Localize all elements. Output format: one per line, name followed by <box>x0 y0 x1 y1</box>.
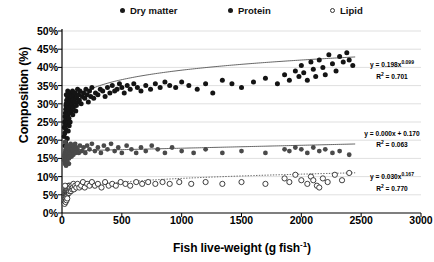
data-point <box>332 172 337 177</box>
data-point <box>153 81 158 86</box>
data-point <box>203 81 208 86</box>
data-point <box>105 147 110 152</box>
data-point <box>119 85 124 90</box>
data-point <box>320 176 325 181</box>
data-point <box>116 145 121 150</box>
trendline-dry-matter <box>67 57 355 109</box>
data-point <box>326 52 331 57</box>
data-point <box>90 141 95 146</box>
data-point <box>63 140 68 145</box>
data-point <box>317 149 322 154</box>
data-point <box>155 147 160 152</box>
data-point <box>119 151 124 156</box>
data-point <box>299 63 304 68</box>
data-point <box>89 85 94 90</box>
data-point <box>334 69 339 74</box>
data-point <box>195 87 200 92</box>
data-point <box>293 69 298 74</box>
data-point <box>203 147 208 152</box>
data-point <box>139 145 144 150</box>
data-point <box>344 50 349 55</box>
data-point <box>296 74 301 79</box>
annotation-protein: y = 0.000x + 0.170 R2 = 0.063 <box>352 130 432 150</box>
data-point <box>341 59 346 64</box>
data-point <box>96 145 101 150</box>
data-point <box>203 179 208 184</box>
series-protein <box>62 140 352 168</box>
data-point <box>115 87 120 92</box>
data-point <box>263 181 268 186</box>
data-point <box>101 143 106 148</box>
data-point <box>179 79 184 84</box>
data-point <box>311 145 316 150</box>
annotation-dry-matter: y = 0.198x0.099 R2 = 0.701 <box>352 58 432 81</box>
data-point <box>167 83 172 88</box>
data-point <box>305 78 310 83</box>
data-point <box>320 65 325 70</box>
data-point <box>301 70 306 75</box>
data-point <box>287 179 292 184</box>
data-point <box>158 85 163 90</box>
data-point <box>110 83 115 88</box>
data-point <box>186 83 191 88</box>
data-point <box>128 183 133 188</box>
data-point <box>66 129 71 134</box>
data-point <box>124 143 129 148</box>
data-point <box>134 179 139 184</box>
data-point <box>167 181 172 186</box>
chart-container: Dry matter Protein Lipid Composition (%)… <box>0 0 434 262</box>
data-point <box>179 149 184 154</box>
data-point <box>160 179 165 184</box>
data-point <box>129 147 134 152</box>
data-point <box>143 83 148 88</box>
data-point <box>63 183 68 188</box>
data-point <box>239 85 244 90</box>
data-point <box>282 176 287 181</box>
data-point <box>330 151 335 156</box>
data-point <box>143 149 148 154</box>
data-point <box>263 151 268 156</box>
data-point <box>293 172 298 177</box>
data-point <box>347 58 352 63</box>
data-point <box>311 67 316 72</box>
data-point <box>239 149 244 154</box>
data-point <box>239 179 244 184</box>
data-point <box>134 151 139 156</box>
data-point <box>293 145 298 150</box>
data-point <box>128 87 133 92</box>
data-point <box>162 79 167 84</box>
data-point <box>263 76 268 81</box>
data-point <box>282 72 287 77</box>
data-point <box>220 181 225 186</box>
annotation-r2-value-lipid: = 0.770 <box>384 185 408 192</box>
annotation-r2-value-dry-matter: = 0.701 <box>384 73 408 80</box>
annotation-equation-lipid: y = 0.030x <box>370 173 401 180</box>
data-point <box>173 85 178 90</box>
data-point <box>91 96 96 101</box>
data-point <box>317 58 322 63</box>
data-point <box>287 149 292 154</box>
annotation-r2-value-protein: = 0.063 <box>384 142 408 149</box>
data-point <box>73 109 78 114</box>
data-point <box>68 120 73 125</box>
data-point <box>299 178 304 183</box>
data-point <box>65 196 70 201</box>
data-point <box>86 99 91 104</box>
data-point <box>275 81 280 86</box>
data-point <box>189 181 194 186</box>
data-point <box>325 179 330 184</box>
data-point <box>220 78 225 83</box>
data-point <box>323 147 328 152</box>
data-point <box>103 94 108 99</box>
data-point <box>287 78 292 83</box>
data-point <box>170 145 175 150</box>
data-point <box>95 92 100 97</box>
data-point <box>135 85 140 90</box>
data-point <box>323 72 328 77</box>
data-point <box>67 161 72 166</box>
data-point <box>131 81 136 86</box>
data-point <box>146 179 151 184</box>
data-point <box>282 147 287 152</box>
data-point <box>100 89 105 94</box>
data-point <box>220 151 225 156</box>
